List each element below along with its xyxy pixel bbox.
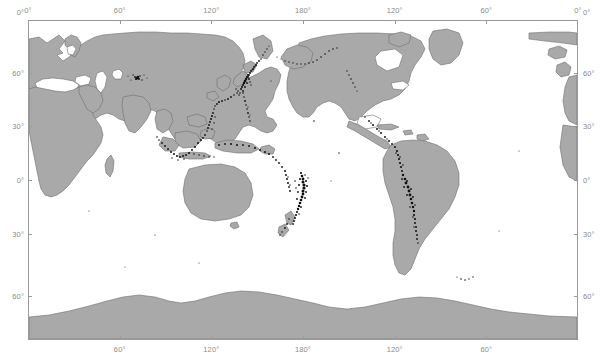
- axis-label-bottom-120w: 120°: [387, 345, 403, 354]
- axis-label-left-60n: 60°: [0, 69, 24, 78]
- tickmark-bottom-60e: [120, 336, 121, 340]
- tickmark-left-60n: [28, 73, 32, 74]
- tickmark-left-30s: [28, 234, 32, 235]
- axis-label-right-0: 0°: [583, 176, 590, 185]
- axis-label-top-60w: 60°: [480, 6, 492, 15]
- tickmark-bottom-120w: [395, 336, 396, 340]
- tickmark-right-30s: [574, 234, 578, 235]
- tickmark-top-120w: [395, 20, 396, 24]
- tickmark-right-60s: [574, 296, 578, 297]
- map-plot-area: .land{fill:#a9a9a9;stroke:#6e6e6e;stroke…: [28, 20, 578, 340]
- tickmark-top-120e: [211, 20, 212, 24]
- world-map-svg: .land{fill:#a9a9a9;stroke:#6e6e6e;stroke…: [29, 21, 577, 339]
- axis-label-top-120e: 120°: [203, 6, 219, 15]
- tickmark-top-60e: [120, 20, 121, 24]
- australia: [183, 164, 253, 221]
- tickmark-right-60n: [574, 73, 578, 74]
- tickmark-top-60w: [486, 20, 487, 24]
- axis-label-right-60s: 60°: [583, 292, 595, 301]
- axis-label-top-0: 0°: [24, 6, 31, 15]
- axis-label-right-30s: 30°: [583, 230, 595, 239]
- axis-label-right-60n: 60°: [583, 69, 595, 78]
- axis-label-bottom-120e: 120°: [203, 345, 219, 354]
- tickmark-left-0: [28, 180, 32, 181]
- tickmark-right-0: [574, 180, 578, 181]
- tickmark-bottom-60w: [486, 336, 487, 340]
- axis-label-right-top0: 0°: [583, 8, 590, 17]
- axis-label-top-120w: 120°: [387, 6, 403, 15]
- hispaniola: [403, 130, 413, 135]
- tickmark-right-30n: [574, 126, 578, 127]
- tickmark-bottom-180: [303, 336, 304, 340]
- axis-label-top-360: 0°: [574, 6, 581, 15]
- tickmark-bottom-120e: [211, 336, 212, 340]
- tickmark-left-60s: [28, 296, 32, 297]
- axis-label-bottom-180: 180°: [295, 345, 311, 354]
- axis-label-left-top0: 0°: [0, 8, 24, 17]
- axis-label-left-0: 0°: [0, 176, 24, 185]
- axis-label-top-60e: 60°: [114, 6, 126, 15]
- axis-label-bottom-60e: 60°: [114, 345, 126, 354]
- axis-label-left-30s: 30°: [0, 230, 24, 239]
- axis-label-left-30n: 30°: [0, 122, 24, 131]
- map-figure: .land{fill:#a9a9a9;stroke:#6e6e6e;stroke…: [0, 0, 608, 359]
- axis-label-top-180: 180°: [295, 6, 311, 15]
- tickmark-top-180: [303, 20, 304, 24]
- axis-label-bottom-60w: 60°: [480, 345, 492, 354]
- tickmark-left-30n: [28, 126, 32, 127]
- axis-label-right-30n: 30°: [583, 122, 595, 131]
- axis-label-left-60s: 60°: [0, 292, 24, 301]
